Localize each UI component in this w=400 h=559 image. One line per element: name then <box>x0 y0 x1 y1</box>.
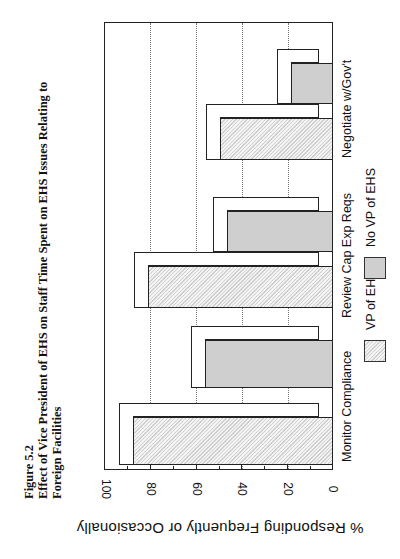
tick <box>104 464 105 470</box>
tick-label-100: 100 <box>99 479 113 499</box>
bar-3d-side <box>119 403 133 465</box>
legend-swatch-vp <box>364 340 386 362</box>
tick-label-60: 60 <box>190 482 204 495</box>
tick <box>219 466 220 470</box>
legend-label-vp: VP of EHS <box>364 270 378 330</box>
y-axis-label: % Responding Frequently or Occasionally <box>20 520 400 537</box>
bar-3d-top <box>119 403 319 417</box>
bar-3d-top <box>206 104 319 118</box>
legend-swatch-novp <box>364 257 386 279</box>
category-label-monitor-compliance: Monitor Compliance <box>340 351 354 462</box>
bar-3d-top <box>191 326 319 340</box>
category-label-review-cap-exp-reqs: Review Cap Exp Reqs <box>340 193 354 318</box>
tick-label-80: 80 <box>144 482 158 495</box>
tick-label-40: 40 <box>235 482 249 495</box>
bar-3d-side <box>213 197 227 252</box>
bar-vp-review-cap-exp-reqs <box>148 266 333 308</box>
category-label-negotiate-gov: Negotiate w/Gov't <box>340 60 354 158</box>
legend-label-novp: No VP of EHS <box>364 168 378 247</box>
figure-title: Effect of Vice President of EHS on Staff… <box>36 39 64 499</box>
bar-novp-review-cap-exp-reqs <box>227 211 333 252</box>
bar-novp-negotiate-gov <box>291 63 333 104</box>
bar-3d-side <box>191 326 205 388</box>
figure-caption: Figure 5.2 Effect of Vice President of E… <box>22 0 82 559</box>
bar-3d-top <box>213 197 319 211</box>
bar-3d-top <box>134 252 319 266</box>
tick <box>173 466 174 470</box>
tick-label-20: 20 <box>281 482 295 495</box>
tick <box>264 466 265 470</box>
bar-vp-monitor-compliance <box>133 417 333 465</box>
bar-3d-side <box>134 252 148 308</box>
bar-novp-monitor-compliance <box>205 340 333 388</box>
bar-vp-negotiate-gov <box>220 118 333 160</box>
bar-3d-side <box>277 49 291 104</box>
tick <box>310 466 311 470</box>
bar-3d-side <box>206 104 220 160</box>
tick-label-0: 0 <box>326 486 340 493</box>
tick <box>127 466 128 470</box>
figure-number: Figure 5.2 <box>22 39 36 499</box>
